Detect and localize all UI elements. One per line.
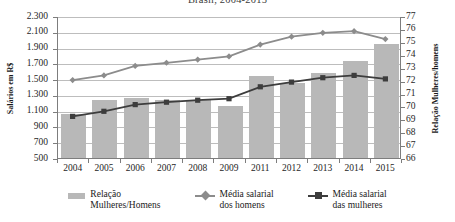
x-tick-mark xyxy=(182,159,183,163)
x-tick-mark xyxy=(370,159,371,163)
marker-2005 xyxy=(101,109,106,114)
marker-2014 xyxy=(352,73,357,78)
y-left-tick-label: 700 xyxy=(2,137,48,147)
y-left-tick-mark xyxy=(53,80,57,81)
chart-title: Brasil, 2004-2015 xyxy=(0,0,455,5)
y-left-tick-label: 1.300 xyxy=(2,89,48,99)
legend-label: RelaçãoMulheres/Homens xyxy=(90,189,160,211)
y-right-tick-mark xyxy=(401,95,405,96)
y-left-tick-mark xyxy=(53,112,57,113)
legend-line-swatch-icon xyxy=(308,191,328,201)
y-left-tick-mark xyxy=(53,17,57,18)
x-tick-mark xyxy=(276,159,277,163)
y-right-tick-label: 72 xyxy=(406,75,432,85)
legend-line-swatch-icon xyxy=(195,191,215,201)
y-left-tick-mark xyxy=(53,33,57,34)
marker-2011 xyxy=(257,42,263,48)
legend-label-line1: Relação xyxy=(90,189,160,200)
y-right-tick-label: 68 xyxy=(406,127,432,137)
marker-2007 xyxy=(163,60,169,66)
legend-label: Média salarialdos homens xyxy=(220,189,274,211)
legend-label-line2: das mulheres xyxy=(333,200,387,211)
y-right-tick-mark xyxy=(401,43,405,44)
y-left-tick-mark xyxy=(53,143,57,144)
x-tick-mark xyxy=(88,159,89,163)
y-right-tick-mark xyxy=(401,82,405,83)
y-right-tick-mark xyxy=(401,17,405,18)
legend-item-3[interactable]: Média salarialdas mulheres xyxy=(308,189,387,211)
legend-bar-swatch-icon xyxy=(68,193,85,199)
y-left-tick-mark xyxy=(53,127,57,128)
x-tick-mark xyxy=(339,159,340,163)
marker-2012 xyxy=(289,80,294,85)
marker-2008 xyxy=(195,98,200,103)
y-left-tick-label: 500 xyxy=(2,153,48,163)
x-tick-mark xyxy=(307,159,308,163)
legend-diamond-marker-icon xyxy=(200,191,210,201)
line-mulheres xyxy=(73,75,386,116)
chart-container: Brasil, 2004-2015 Salários em R$ Relação… xyxy=(0,0,455,222)
marker-2012 xyxy=(288,34,294,40)
y-right-tick-label: 75 xyxy=(406,36,432,46)
y-right-tick-label: 74 xyxy=(406,49,432,59)
x-tick-mark xyxy=(213,159,214,163)
y-right-tick-label: 76 xyxy=(406,23,432,33)
y-right-tick-label: 77 xyxy=(406,11,432,21)
marker-2004 xyxy=(70,77,76,83)
x-tick-mark xyxy=(57,159,58,163)
marker-2006 xyxy=(133,102,138,107)
y-left-tick-label: 1.700 xyxy=(2,58,48,68)
marker-2014 xyxy=(351,28,357,34)
marker-2015 xyxy=(383,76,388,81)
x-tick-mark xyxy=(151,159,152,163)
marker-2005 xyxy=(101,72,107,78)
y-right-tick-label: 70 xyxy=(406,101,432,111)
y-right-tick-label: 67 xyxy=(406,140,432,150)
y-right-tick-mark xyxy=(401,30,405,31)
y-right-tick-label: 71 xyxy=(406,88,432,98)
marker-2008 xyxy=(195,57,201,63)
y-left-tick-label: 1.500 xyxy=(2,74,48,84)
y-left-tick-label: 900 xyxy=(2,121,48,131)
y-left-tick-label: 2.300 xyxy=(2,11,48,21)
y-right-tick-mark xyxy=(401,69,405,70)
marker-2011 xyxy=(258,84,263,89)
legend-item-1[interactable]: RelaçãoMulheres/Homens xyxy=(68,189,160,211)
y-right-tick-mark xyxy=(401,107,405,108)
line-series-overlay xyxy=(57,17,401,159)
marker-2009 xyxy=(226,53,232,59)
y-right-tick-mark xyxy=(401,56,405,57)
y-right-tick-label: 66 xyxy=(406,153,432,163)
y-left-tick-label: 1.900 xyxy=(2,42,48,52)
legend-label: Média salarialdas mulheres xyxy=(333,189,387,211)
marker-2007 xyxy=(164,100,169,105)
y-right-tick-mark xyxy=(401,146,405,147)
legend-label-line1: Média salarial xyxy=(333,189,387,200)
chart-legend: RelaçãoMulheres/HomensMédia salarialdos … xyxy=(0,189,455,211)
legend-square-marker-icon xyxy=(315,192,322,199)
y-right-tick-label: 73 xyxy=(406,62,432,72)
y-left-tick-label: 2.100 xyxy=(2,26,48,36)
legend-item-2[interactable]: Média salarialdos homens xyxy=(195,189,274,211)
y-right-tick-mark xyxy=(401,133,405,134)
y-left-tick-mark xyxy=(53,49,57,50)
marker-2004 xyxy=(70,114,75,119)
y-right-tick-mark xyxy=(401,120,405,121)
y-left-tick-mark xyxy=(53,96,57,97)
marker-2013 xyxy=(320,75,325,80)
y-right-tick-label: 69 xyxy=(406,114,432,124)
legend-label-line1: Média salarial xyxy=(220,189,274,200)
marker-2013 xyxy=(320,30,326,36)
legend-label-line2: dos homens xyxy=(220,200,274,211)
x-tick-mark xyxy=(245,159,246,163)
legend-label-line2: Mulheres/Homens xyxy=(90,200,160,211)
marker-2015 xyxy=(382,36,388,42)
y-left-tick-mark xyxy=(53,64,57,65)
x-tick-mark xyxy=(401,159,402,163)
x-tick-mark xyxy=(120,159,121,163)
marker-2006 xyxy=(132,63,138,69)
y-left-tick-label: 1.100 xyxy=(2,105,48,115)
marker-2009 xyxy=(226,96,231,101)
x-tick-label-2015: 2015 xyxy=(365,163,405,173)
